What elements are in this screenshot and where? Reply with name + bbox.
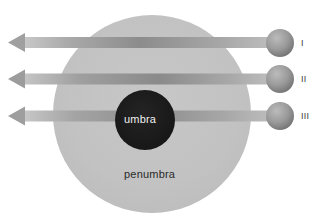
ray-label-2: II (301, 74, 307, 84)
ray-1-arrowhead (8, 33, 25, 52)
diagram-canvas (0, 0, 322, 223)
ray-label-1: I (301, 38, 304, 48)
sphere-3 (266, 102, 294, 130)
ray-3-arrowhead (8, 107, 25, 126)
sphere-1 (266, 29, 294, 57)
eclipse-shadow-diagram: umbra penumbra I II III (0, 0, 322, 223)
ray-2-arrowhead (8, 70, 25, 89)
sphere-2 (266, 65, 294, 93)
ray-label-3: III (301, 111, 309, 121)
ray-1-band (22, 37, 284, 48)
ray-2-band (22, 74, 284, 85)
penumbra-label: penumbra (124, 168, 175, 180)
umbra-label: umbra (124, 113, 156, 125)
